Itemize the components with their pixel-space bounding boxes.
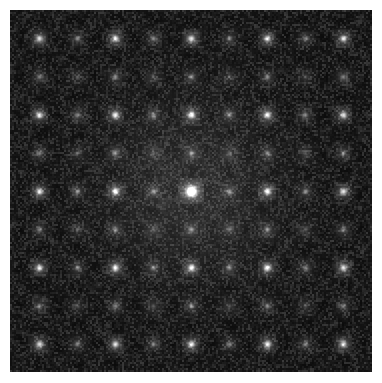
fourier-spectrum-image bbox=[10, 10, 372, 372]
diffraction-pattern-canvas bbox=[10, 10, 372, 372]
figure-page bbox=[0, 0, 382, 383]
